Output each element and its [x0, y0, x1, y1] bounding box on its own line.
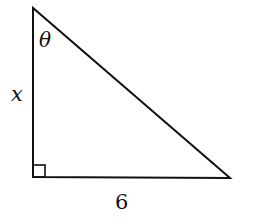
side-label-x: x — [11, 82, 23, 106]
triangle-diagram: θ x 6 — [0, 0, 254, 224]
angle-label-theta: θ — [39, 28, 51, 52]
side-label-6: 6 — [115, 190, 128, 214]
right-triangle — [33, 8, 230, 178]
right-angle-marker — [33, 165, 45, 177]
